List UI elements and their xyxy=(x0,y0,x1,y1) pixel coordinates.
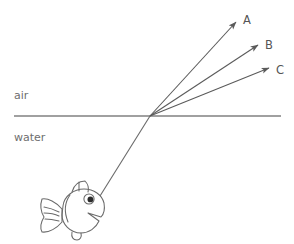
fish-dorsal-fin xyxy=(72,181,88,192)
fish-eye-pupil xyxy=(88,197,94,203)
fish-body xyxy=(62,189,104,233)
incident-ray-from-fish xyxy=(100,116,150,196)
diagram-canvas: A B C air water xyxy=(0,0,294,244)
ray-label-c: C xyxy=(276,63,284,77)
fish-tail-detail-3 xyxy=(45,219,59,221)
ray-a xyxy=(150,22,236,116)
fish-tail-detail-2 xyxy=(44,213,59,216)
ray-c xyxy=(150,68,269,116)
ray-label-a: A xyxy=(243,13,251,27)
fish-illustration xyxy=(41,181,104,240)
ray-b xyxy=(150,45,258,116)
fish-gill-line xyxy=(66,195,70,222)
ray-label-b: B xyxy=(265,38,273,52)
physics-diagram-refraction: A B C air water xyxy=(0,0,294,244)
fish-tail-detail-1 xyxy=(44,207,59,212)
water-label: water xyxy=(14,131,46,144)
air-label: air xyxy=(14,89,29,102)
